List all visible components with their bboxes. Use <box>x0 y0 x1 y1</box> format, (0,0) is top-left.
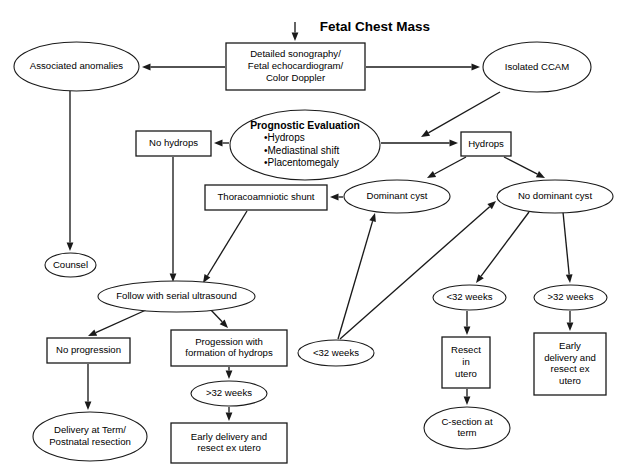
node-label-heading: Prognostic Evaluation <box>250 120 360 131</box>
edge-line <box>481 212 529 276</box>
node-label: Associated anomalies <box>30 60 124 71</box>
node-lt32-weeks-center[interactable]: <32 weeks <box>298 340 374 366</box>
node-no-dominant-cyst[interactable]: No dominant cyst <box>497 180 613 213</box>
node-label: No hydrops <box>149 137 198 148</box>
edge-detailed-sonography-to-associated-anomalies <box>142 64 225 71</box>
nodes-layer: Fetal Chest MassDetailed sonography/Feta… <box>14 19 613 463</box>
edge-detailed-sonography-to-isolated-ccam <box>366 64 480 71</box>
node-label: Early delivery and <box>191 431 267 442</box>
edge-line <box>338 221 373 339</box>
edge-arrowhead <box>369 213 376 222</box>
edge-gt32-weeks-left-to-early-delivery-resect <box>226 407 233 421</box>
edge-hydrops-to-dominant-cyst <box>427 157 466 178</box>
node-lt32-weeks-right[interactable]: <32 weeks <box>433 285 506 310</box>
edge-line <box>563 212 569 275</box>
node-label: resect ex utero <box>197 442 260 453</box>
node-label: Resect <box>451 344 481 355</box>
edge-arrowhead <box>567 323 574 332</box>
node-thoracoamniotic-shunt[interactable]: Thoracoamniotic shunt <box>205 185 327 210</box>
edge-lt32-weeks-center-to-dominant-cyst <box>338 213 376 339</box>
node-associated-anomalies[interactable]: Associated anomalies <box>14 42 139 91</box>
edge-arrowhead <box>476 274 484 283</box>
node-follow-serial-ultrasound[interactable]: Follow with serial ultrasound <box>98 281 255 312</box>
edge-thoracoamniotic-shunt-to-follow-serial-ultrasound <box>203 211 247 283</box>
node-fetal-chest-mass: Fetal Chest Mass <box>320 19 430 34</box>
edge-line <box>504 157 537 174</box>
edge-dominant-cyst-to-thoracoamniotic-shunt <box>330 194 343 201</box>
edge-follow-serial-ultrasound-to-no-progression <box>88 310 146 336</box>
node-label: delivery and <box>544 352 596 363</box>
node-progression-hydrops[interactable]: Progession withformation of hydrops <box>171 330 287 366</box>
node-label: Dominant cyst <box>367 190 428 201</box>
edge-no-progression-to-delivery-term <box>85 364 92 410</box>
edge-line <box>428 92 500 133</box>
node-hydrops[interactable]: Hydrops <box>461 132 511 156</box>
node-label: Fetal echocardiogram/ <box>248 60 344 71</box>
node-label: Delivery at Term/ <box>54 424 126 435</box>
node-label: Counsel <box>53 259 88 270</box>
node-gt32-weeks-right[interactable]: >32 weeks <box>534 285 607 310</box>
edge-arrowhead <box>421 130 430 137</box>
edge-hydrops-to-no-dominant-cyst <box>504 157 545 178</box>
edge-arrowhead <box>214 140 223 147</box>
edge-arrowhead <box>536 171 545 178</box>
edge-arrowhead <box>472 64 481 71</box>
node-no-progression[interactable]: No progression <box>47 338 130 363</box>
edge-arrowhead <box>427 171 436 178</box>
node-label: >32 weeks <box>206 387 252 398</box>
edge-arrowhead <box>330 194 339 201</box>
node-label: Isolated CCAM <box>505 61 570 72</box>
node-label: <32 weeks <box>313 347 359 358</box>
node-label: Thoracoamniotic shunt <box>217 191 314 202</box>
node-delivery-term[interactable]: Delivery at Term/Postnatal resection <box>33 412 147 461</box>
edge-no-dominant-cyst-to-gt32-weeks-right <box>563 212 573 283</box>
edge-arrowhead <box>85 402 92 411</box>
edge-lt32-weeks-right-to-resect-in-utero <box>464 311 471 335</box>
edge-line <box>96 310 146 333</box>
edge-prognostic-evaluation-to-hydrops <box>381 140 458 147</box>
node-c-section-term[interactable]: C-section atterm <box>424 407 510 449</box>
edge-associated-anomalies-to-counsel <box>67 91 74 251</box>
node-label: Early <box>559 340 581 351</box>
node-label: Progession with <box>195 336 263 347</box>
node-label: C-section at <box>441 416 493 427</box>
node-label: No dominant cyst <box>518 190 592 201</box>
node-label: Postnatal resection <box>49 436 131 447</box>
node-resect-in-utero[interactable]: Resectinutero <box>442 337 490 388</box>
edge-arrowhead <box>464 397 471 406</box>
node-label: resect ex <box>551 363 590 374</box>
node-gt32-weeks-left[interactable]: >32 weeks <box>191 381 267 406</box>
node-label: Hydrops <box>468 138 504 149</box>
node-detailed-sonography[interactable]: Detailed sonography/Fetal echocardiogram… <box>226 43 365 90</box>
edge-gt32-weeks-right-to-early-delivery-resect-ex-utero <box>567 311 574 331</box>
edge-follow-serial-ultrasound-to-progression-hydrops <box>210 309 228 328</box>
node-early-delivery-resect-ex-utero[interactable]: Earlydelivery andresect exutero <box>534 333 606 395</box>
edge-arrowhead <box>226 371 233 380</box>
node-early-delivery-resect[interactable]: Early delivery andresect ex utero <box>171 423 287 463</box>
flowchart-canvas: Fetal Chest MassDetailed sonography/Feta… <box>0 0 621 476</box>
edge-arrowhead <box>464 327 471 336</box>
node-label: <32 weeks <box>446 291 492 302</box>
fetal-chest-mass-flowchart: Fetal Chest MassDetailed sonography/Feta… <box>0 0 621 476</box>
node-prognostic-evaluation[interactable]: Prognostic Evaluation•Hydrops•Mediastina… <box>230 110 380 180</box>
node-label: utero <box>455 368 477 379</box>
edge-no-hydrops-to-follow-serial-ultrasound <box>170 157 177 282</box>
node-counsel[interactable]: Counsel <box>45 253 96 277</box>
node-label: >32 weeks <box>547 291 593 302</box>
node-dominant-cyst[interactable]: Dominant cyst <box>344 180 450 213</box>
node-label: in <box>462 356 469 367</box>
node-label: utero <box>559 375 581 386</box>
edge-arrowhead <box>292 33 299 42</box>
node-label-bullet: •Placentomegaly <box>264 157 339 168</box>
node-label: Follow with serial ultrasound <box>116 290 237 301</box>
edge-resect-in-utero-to-c-section-term <box>464 389 471 405</box>
edge-progression-hydrops-to-gt32-weeks-left <box>226 367 233 379</box>
edge-fetal-chest-mass-to-detailed-sonography <box>292 22 299 41</box>
edge-lt32-weeks-center-to-no-dominant-cyst <box>340 201 496 339</box>
node-isolated-ccam[interactable]: Isolated CCAM <box>483 42 591 92</box>
diagram-title: Fetal Chest Mass <box>320 19 430 34</box>
node-label-bullet: •Hydrops <box>264 132 305 143</box>
node-no-hydrops[interactable]: No hydrops <box>136 131 211 156</box>
node-label: formation of hydrops <box>185 347 273 358</box>
edge-arrowhead <box>88 329 97 336</box>
